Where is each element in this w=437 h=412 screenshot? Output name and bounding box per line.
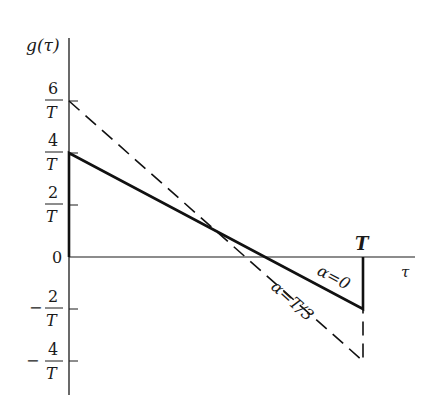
y-tick-label-neg-2-over-T: − 2 T — [29, 287, 63, 330]
svg-text:2: 2 — [48, 287, 58, 306]
svg-text:T: T — [46, 155, 58, 174]
y-tick-label-2-over-T: 2 T — [45, 183, 63, 226]
svg-text:T: T — [46, 364, 58, 383]
svg-text:−: − — [26, 351, 39, 370]
x-tick-label-T: T — [355, 233, 370, 254]
svg-text:−: − — [29, 298, 42, 317]
svg-text:6: 6 — [48, 79, 58, 98]
y-tick-label-4-over-T: 4 T — [45, 131, 63, 174]
y-tick-label-0: 0 — [52, 248, 62, 267]
y-tick-label-neg-4-over-T: − 4 T — [26, 340, 63, 383]
svg-text:4: 4 — [48, 340, 58, 359]
y-tick-label-6-over-T: 6 T — [45, 79, 63, 122]
annotation-alpha-0: α=0 — [314, 261, 353, 294]
chart-canvas: g(τ) τ T 6 T 4 T 2 T 0 − 2 T − 4 T α=0 α… — [0, 0, 437, 412]
y-ticks — [69, 101, 78, 361]
series-alpha-0-line — [69, 153, 363, 309]
svg-text:T: T — [46, 103, 58, 122]
svg-text:T: T — [46, 311, 58, 330]
y-axis-label: g(τ) — [26, 35, 60, 55]
x-axis-label: τ — [401, 263, 410, 281]
svg-text:g(τ): g(τ) — [26, 35, 60, 55]
svg-text:T: T — [46, 207, 58, 226]
annotation-alpha-T3: α=T/3 — [267, 277, 317, 325]
svg-text:4: 4 — [48, 131, 58, 150]
svg-text:2: 2 — [48, 183, 58, 202]
